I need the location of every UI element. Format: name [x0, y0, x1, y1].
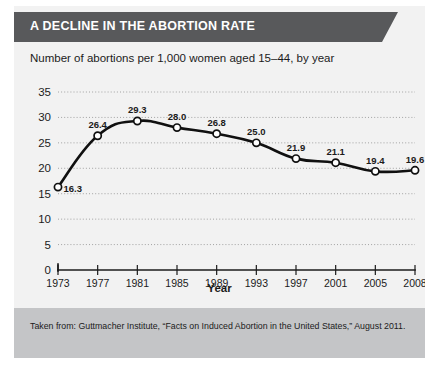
source-note-band: Taken from: Guttmacher Institute, “Facts…: [14, 308, 425, 358]
data-point-label: 25.0: [247, 126, 266, 137]
data-point-label: 21.9: [287, 142, 306, 153]
data-point-marker: [292, 155, 299, 162]
chart-title: A DECLINE IN THE ABORTION RATE: [30, 19, 255, 33]
data-point-label: 26.8: [207, 117, 226, 128]
y-axis-tick-label: 0: [45, 264, 51, 276]
data-point-label: 28.0: [168, 111, 187, 122]
data-point-marker: [134, 117, 141, 124]
y-axis-tick-label: 30: [38, 111, 51, 123]
data-point-label: 19.4: [366, 155, 385, 166]
data-point-marker: [173, 124, 180, 131]
chart-card: A DECLINE IN THE ABORTION RATE Number of…: [14, 6, 425, 358]
y-axis-tick-label: 10: [38, 213, 51, 225]
data-point-label: 21.1: [326, 146, 345, 157]
line-chart-svg: 05101520253035 1973197719811985198919931…: [14, 78, 425, 300]
plot-area: 05101520253035 1973197719811985198919931…: [14, 78, 425, 300]
y-axis-tick-label: 25: [38, 137, 51, 149]
data-point-marker: [411, 167, 418, 174]
x-axis: [58, 264, 415, 275]
data-point-marker: [94, 132, 101, 139]
data-point-marker: [213, 130, 220, 137]
source-note: Taken from: Guttmacher Institute, “Facts…: [30, 320, 410, 334]
data-point-marker: [372, 168, 379, 175]
data-point-label: 16.3: [64, 183, 83, 194]
data-point-marker: [253, 139, 260, 146]
data-series: [58, 121, 415, 187]
y-axis-tick-label: 35: [38, 86, 51, 98]
y-axis-tick-label: 15: [38, 188, 51, 200]
y-axis-tick-labels: 05101520253035: [38, 86, 51, 276]
data-point-marker: [332, 159, 339, 166]
series-line: [58, 121, 415, 187]
x-axis-title: Year: [14, 282, 425, 294]
y-axis-tick-label: 20: [38, 162, 51, 174]
data-point-label: 19.6: [406, 154, 425, 165]
chart-subtitle: Number of abortions per 1,000 women aged…: [30, 52, 334, 64]
y-axis-tick-label: 5: [45, 239, 51, 251]
data-point-label: 29.3: [128, 104, 147, 115]
data-point-marker: [54, 184, 61, 191]
data-point-label: 26.4: [88, 119, 107, 130]
